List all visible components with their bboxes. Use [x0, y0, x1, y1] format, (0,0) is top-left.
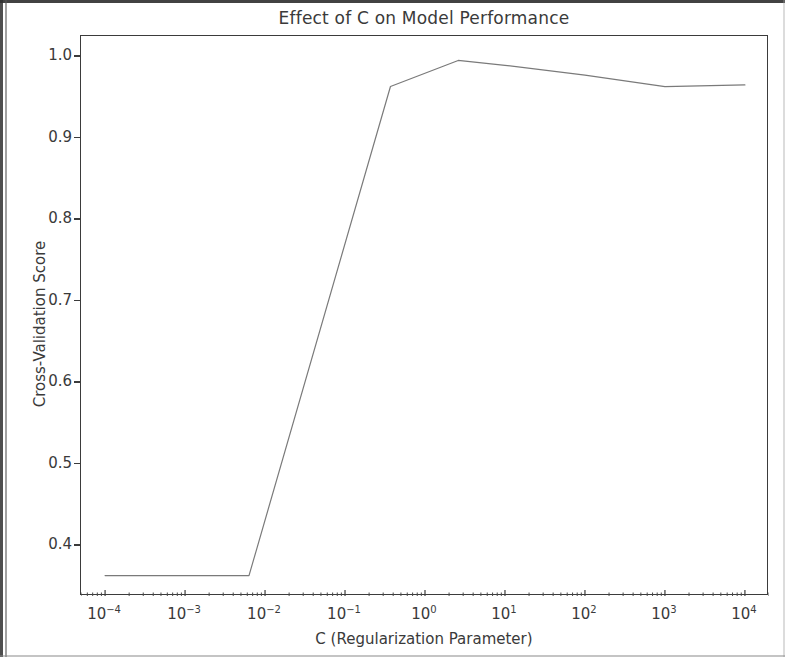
x-tick-label: 101 [491, 604, 516, 623]
plot-area [80, 35, 768, 595]
x-tick-label: 104 [731, 604, 756, 623]
x-tick-label: 10−4 [87, 604, 121, 623]
x-tick-exponent: −4 [106, 604, 121, 615]
x-tick-label: 10−2 [247, 604, 281, 623]
x-tick-base: 10 [731, 605, 750, 623]
x-tick-exponent: −1 [346, 604, 361, 615]
y-tick-label: 0.7 [0, 291, 72, 309]
x-tick-exponent: 1 [510, 604, 516, 615]
x-tick-exponent: 2 [590, 604, 596, 615]
figure-canvas: Effect of C on Model Performance Cross-V… [0, 0, 785, 657]
x-tick-label: 10−3 [167, 604, 201, 623]
x-tick-base: 10 [247, 605, 266, 623]
y-tick-label: 0.9 [0, 128, 72, 146]
x-tick-exponent: 0 [430, 604, 436, 615]
x-tick-base: 10 [327, 605, 346, 623]
x-tick-exponent: 3 [670, 604, 676, 615]
plot-svg [81, 36, 769, 596]
x-tick-base: 10 [87, 605, 106, 623]
y-tick-label: 1.0 [0, 46, 72, 64]
x-tick-exponent: −2 [266, 604, 281, 615]
x-tick-base: 10 [651, 605, 670, 623]
x-tick-base: 10 [571, 605, 590, 623]
y-tick-label: 0.6 [0, 372, 72, 390]
x-tick-base: 10 [167, 605, 186, 623]
x-tick-label: 102 [571, 604, 596, 623]
x-tick-base: 10 [491, 605, 510, 623]
x-tick-label: 100 [411, 604, 436, 623]
y-tick-label: 0.4 [0, 535, 72, 553]
x-tick-exponent: 4 [750, 604, 756, 615]
y-tick-label: 0.5 [0, 454, 72, 472]
x-tick-exponent: −3 [186, 604, 201, 615]
x-tick-base: 10 [411, 605, 430, 623]
x-axis-major-ticks [105, 590, 745, 596]
data-series-line [105, 60, 745, 575]
x-tick-label: 103 [651, 604, 676, 623]
y-tick-label: 0.8 [0, 209, 72, 227]
x-tick-label: 10−1 [327, 604, 361, 623]
